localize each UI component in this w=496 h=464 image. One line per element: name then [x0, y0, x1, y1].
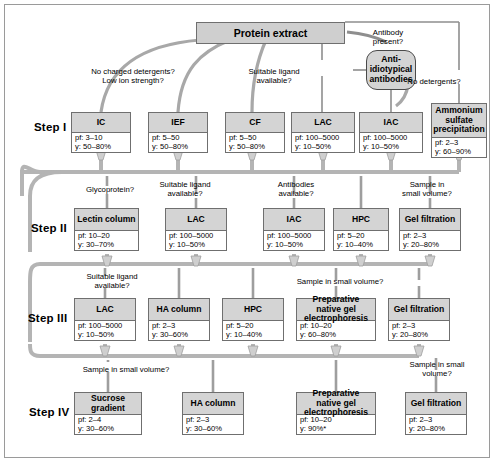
process-node: Gel filtrationpf: 2–3y: 20–80%: [399, 208, 461, 251]
process-node: IACpf: 100–5000y: 10–50%: [263, 208, 325, 251]
node-yield: y: 10–50%: [267, 241, 324, 250]
node-values: pf: 100–5000y: 10–50%: [360, 133, 422, 152]
node-title: Gel filtration: [406, 393, 466, 415]
decision-label: Suitable ligand available?: [86, 272, 137, 290]
node-yield: y: 60–80%: [300, 331, 375, 340]
process-node: Lectin columnpf: 10–20y: 30–70%: [74, 208, 139, 251]
decision-label: Glycoprotein?: [86, 185, 134, 194]
decision-label: Sample in small volume?: [409, 360, 464, 378]
node-yield: y: 30–70%: [78, 241, 138, 250]
diagram-canvas: Protein extract Anti-idiotypicalantibodi…: [0, 0, 496, 464]
node-yield: y: 10–50%: [363, 143, 422, 152]
node-yield: y: 20–80%: [409, 425, 466, 434]
decision-label: Suitable ligand available?: [159, 180, 210, 198]
node-values: pf: 2–3y: 20–80%: [400, 231, 460, 250]
node-values: pf: 5–50y: 50–80%: [149, 133, 207, 152]
node-title: HA column: [183, 393, 243, 415]
node-title: IC: [72, 113, 130, 133]
decision-label: Sample in small volume?: [83, 365, 170, 374]
step-label-3: Step III: [28, 312, 67, 324]
node-title: HA column: [149, 299, 209, 321]
process-node: Ammonium sulfate precipitationpf: 2–3y: …: [431, 103, 487, 158]
process-node: Gel filtrationpf: 2–3y: 20–80%: [388, 298, 450, 341]
decision-label: Antibody present?: [373, 28, 403, 46]
node-title: LAC: [75, 299, 135, 321]
step-label-4: Step IV: [29, 406, 69, 418]
node-yield: y: 30–60%: [186, 425, 243, 434]
node-values: pf: 100–5000y: 10–50%: [264, 231, 324, 250]
node-yield: y: 50–80%: [229, 143, 284, 152]
node-title: Ammonium sulfate precipitation: [432, 104, 486, 138]
node-title: IEF: [149, 113, 207, 133]
node-yield: y: 10–50%: [295, 143, 354, 152]
process-node: LACpf: 100–5000y: 10–50%: [74, 298, 136, 341]
process-node: HPCpf: 5–20y: 10–40%: [222, 298, 284, 341]
node-yield: y: 20–80%: [392, 331, 449, 340]
node-values: pf: 2–3y: 30–60%: [183, 415, 243, 434]
process-node: IACpf: 100–5000y: 10–50%: [359, 112, 423, 153]
node-yield: y: 60–90%: [435, 148, 486, 157]
node-values: pf: 2–3y: 30–60%: [149, 321, 209, 340]
step-label-2: Step II: [31, 222, 67, 234]
node-yield: y: 30–60%: [152, 331, 209, 340]
node-values: pf: 2–3y: 20–80%: [406, 415, 466, 434]
process-node: IEFpf: 5–50y: 50–80%: [148, 112, 208, 153]
node-yield: y: 10–50%: [169, 241, 226, 250]
node-yield: y: 50–80%: [152, 143, 207, 152]
node-values: pf: 2–3y: 60–90%: [432, 138, 486, 157]
node-title: CF: [226, 113, 284, 133]
node-yield: y: 50–80%: [75, 143, 130, 152]
step-label-1: Step I: [34, 121, 67, 133]
decision-label: Sample in small volume?: [297, 277, 384, 286]
node-values: pf: 5–50y: 50–80%: [226, 133, 284, 152]
node-title: LAC: [292, 113, 354, 133]
node-values: pf: 10–20y: 30–70%: [75, 231, 138, 250]
node-values: pf: 2–3y: 20–80%: [389, 321, 449, 340]
protein-extract-label: Protein extract: [234, 27, 308, 39]
decision-label: No charged detergents? Low ion strength?: [91, 67, 175, 85]
node-title: HPC: [223, 299, 283, 321]
process-node: Sucrose gradientpf: 2–4y: 30–60%: [74, 392, 142, 435]
process-node: CFpf: 5–50y: 50–80%: [225, 112, 285, 153]
process-node: Gel filtrationpf: 2–3y: 20–80%: [405, 392, 467, 435]
protein-extract-box: Protein extract: [196, 22, 345, 44]
process-node: HPCpf: 5–20y: 10–40%: [333, 208, 389, 251]
node-title: Preparative native gel electrophoresis: [297, 393, 375, 415]
process-node: Preparative native gel electrophoresispf…: [296, 392, 376, 435]
node-title: IAC: [264, 209, 324, 231]
process-node: Preparative native gel electrophoresispf…: [296, 298, 376, 341]
process-node: ICpf: 3–10y: 50–80%: [71, 112, 131, 153]
node-yield: y: 10–50%: [78, 331, 135, 340]
decision-label: No detergents?: [407, 77, 460, 86]
process-node: LACpf: 100–5000y: 10–50%: [291, 112, 355, 153]
node-title: Sucrose gradient: [75, 393, 141, 415]
node-yield: y: 90%*: [300, 425, 375, 434]
node-yield: y: 20–80%: [403, 241, 460, 250]
process-node: HA columnpf: 2–3y: 30–60%: [182, 392, 244, 435]
process-node: HA columnpf: 2–3y: 30–60%: [148, 298, 210, 341]
node-values: pf: 2–4y: 30–60%: [75, 415, 141, 434]
node-title: LAC: [166, 209, 226, 231]
node-title: IAC: [360, 113, 422, 133]
decision-label: Sample in small volume?: [402, 180, 452, 198]
node-values: pf: 100–5000y: 10–50%: [292, 133, 354, 152]
node-values: pf: 5–20y: 10–40%: [334, 231, 388, 250]
node-title: Preparative native gel electrophoresis: [297, 299, 375, 321]
node-values: pf: 5–20y: 10–40%: [223, 321, 283, 340]
node-values: pf: 3–10y: 50–80%: [72, 133, 130, 152]
node-yield: y: 10–40%: [337, 241, 388, 250]
node-values: pf: 100–5000y: 10–50%: [75, 321, 135, 340]
pill-label: Anti-idiotypicalantibodies: [370, 55, 413, 84]
node-values: pf: 100–5000y: 10–50%: [166, 231, 226, 250]
process-node: LACpf: 100–5000y: 10–50%: [165, 208, 227, 251]
node-yield: y: 10–40%: [226, 331, 283, 340]
node-title: Gel filtration: [389, 299, 449, 321]
node-title: Gel filtration: [400, 209, 460, 231]
node-title: Lectin column: [75, 209, 138, 231]
decision-label: Antibodies available?: [278, 180, 314, 198]
node-yield: y: 30–60%: [78, 425, 141, 434]
node-title: HPC: [334, 209, 388, 231]
decision-label: Suitable ligand available?: [248, 67, 299, 85]
